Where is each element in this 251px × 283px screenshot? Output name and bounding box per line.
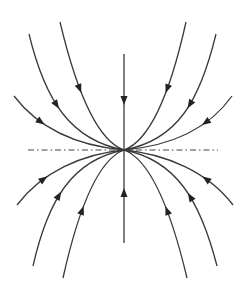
trajectory-top-7 (124, 96, 232, 150)
trajectory-bot-5 (124, 150, 187, 278)
trajectory-top-1 (14, 96, 124, 150)
arrowhead-icon (38, 173, 49, 184)
arrowhead-icon (185, 191, 196, 202)
arrowhead-icon (121, 188, 128, 197)
trajectory-top-5 (124, 22, 186, 150)
trajectory-bot-3 (63, 150, 124, 278)
arrowhead-icon (77, 205, 87, 216)
trajectory-top-6 (124, 34, 216, 150)
arrowhead-icon (121, 96, 128, 105)
trajectory-bot-1 (17, 150, 124, 205)
arrowhead-icon (200, 174, 211, 185)
arrowhead-icon (54, 190, 65, 201)
trajectory-top-2 (29, 34, 124, 150)
trajectory-bot-7 (124, 150, 233, 205)
arrowhead-icon (75, 83, 85, 94)
trajectory-bot-2 (33, 150, 124, 266)
arrowhead-icon (35, 116, 46, 127)
arrowhead-icon (185, 99, 196, 110)
arrowhead-icon (162, 83, 172, 94)
phase-portrait-svg (0, 0, 251, 283)
arrowhead-icon (51, 99, 62, 110)
arrowhead-icon (162, 205, 172, 216)
phase-portrait-figure (0, 0, 251, 283)
trajectory-bot-6 (124, 150, 217, 266)
arrowhead-icon (200, 117, 211, 128)
trajectory-top-3 (60, 22, 124, 150)
